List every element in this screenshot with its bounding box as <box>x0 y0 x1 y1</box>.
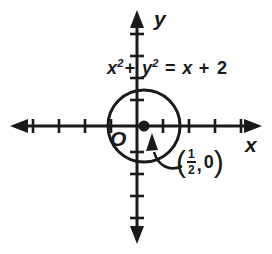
point-coordinate-label: ( 1 2 , 0 ) <box>176 148 224 176</box>
y-axis-arrow-down <box>130 226 144 244</box>
axis-label-y: y <box>154 8 166 29</box>
coordinate-y-value: 0 <box>204 152 214 173</box>
equation-exp-y: 2 <box>152 57 159 69</box>
y-axis-arrow-up <box>130 10 144 28</box>
math-figure: y x O x2+ y2 = x + 2 ( 1 2 , 0 ) <box>0 0 272 254</box>
open-paren: ( <box>176 149 186 175</box>
fraction-numerator: 1 <box>187 148 196 160</box>
fraction-one-half: 1 2 <box>187 148 196 176</box>
close-paren: ) <box>214 149 224 175</box>
equation-rhs-2: 2 <box>216 58 228 78</box>
origin-label: O <box>110 128 126 149</box>
center-point-dot <box>139 121 150 132</box>
x-axis-arrow-left <box>10 119 28 133</box>
x-axis-arrow-right <box>244 119 262 133</box>
leader-arrowhead <box>146 133 158 151</box>
axis-label-x: x <box>245 134 257 155</box>
equation-term-y: y <box>142 58 152 78</box>
equation-label: x2+ y2 = x + 2 <box>107 57 228 79</box>
equation-plus-2: + <box>198 58 211 78</box>
equation-exp-x: 2 <box>117 57 124 69</box>
coordinate-plane-svg <box>0 0 272 254</box>
coordinate-comma: , <box>197 155 202 176</box>
equation-rhs-x: x <box>182 58 192 78</box>
fraction-denominator: 2 <box>187 164 196 176</box>
equation-term-x: x <box>107 58 117 78</box>
equation-plus-1: + <box>124 58 137 78</box>
equation-equals: = <box>164 58 177 78</box>
